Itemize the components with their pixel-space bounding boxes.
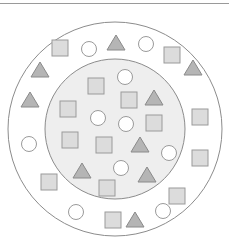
circle-shape	[114, 161, 129, 176]
square-shape	[192, 150, 208, 166]
square-shape	[62, 132, 78, 148]
circle-shape	[139, 37, 154, 52]
square-shape	[99, 180, 115, 196]
square-shape	[169, 188, 185, 204]
circle-shape	[22, 137, 37, 152]
circle-shape	[119, 117, 134, 132]
square-shape	[41, 174, 57, 190]
circle-shape	[82, 42, 97, 57]
circle-shape	[162, 146, 177, 161]
circle-shape	[118, 70, 133, 85]
concentric-shapes-diagram	[0, 0, 229, 251]
square-shape	[164, 47, 180, 63]
square-shape	[121, 92, 137, 108]
square-shape	[96, 137, 112, 153]
square-shape	[88, 78, 104, 94]
circle-shape	[156, 204, 171, 219]
inner-circle	[45, 59, 185, 199]
square-shape	[192, 109, 208, 125]
circle-shape	[69, 205, 84, 220]
square-shape	[60, 101, 76, 117]
circle-shape	[91, 111, 106, 126]
square-shape	[105, 212, 121, 228]
square-shape	[146, 115, 162, 131]
square-shape	[52, 40, 68, 56]
